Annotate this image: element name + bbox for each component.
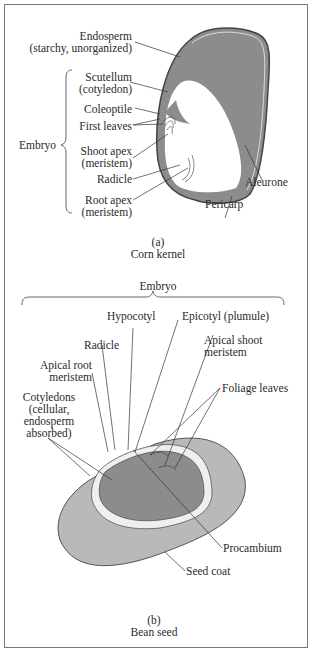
label-radicle-a: Radicle: [60, 173, 132, 185]
label-scutellum: Scutellum: [60, 71, 132, 83]
label-embryo-a: Embryo: [19, 139, 56, 151]
caption-a-letter: (a): [108, 236, 208, 248]
label-radicle-b: Radicle: [84, 339, 119, 351]
label-procambium: Procambium: [223, 542, 282, 554]
label-cotyledons-2: (cellular,: [14, 403, 84, 415]
label-hypocotyl: Hypocotyl: [107, 310, 156, 322]
label-seed-coat: Seed coat: [186, 565, 230, 577]
diagram-drawings: [0, 0, 317, 655]
label-epicotyl: Epicotyl (plumule): [182, 310, 269, 322]
caption-b-title: Bean seed: [104, 626, 204, 638]
label-embryo-b: Embryo: [108, 280, 208, 292]
label-apical-root-sub: meristem: [20, 371, 92, 383]
label-endosperm-sub: (starchy, unorganized): [10, 42, 132, 54]
label-apical-shoot: Apical shoot: [204, 334, 262, 346]
caption-a-title: Corn kernel: [108, 248, 208, 260]
caption-b-letter: (b): [104, 614, 204, 626]
label-cotyledons: Cotyledons: [14, 391, 84, 403]
label-first-leaves: First leaves: [60, 120, 132, 132]
label-shoot-apex: Shoot apex: [60, 145, 132, 157]
label-cotyledons-3: endosperm: [14, 415, 84, 427]
label-foliage-leaves: Foliage leaves: [222, 382, 288, 394]
label-scutellum-sub: (cotyledon): [60, 83, 132, 95]
label-apical-root: Apical root: [20, 359, 92, 371]
label-pericarp: Pericarp: [205, 198, 243, 210]
label-root-apex: Root apex: [60, 194, 132, 206]
label-endosperm: Endosperm: [70, 30, 132, 42]
label-apical-shoot-sub: meristem: [204, 346, 247, 358]
label-coleoptile: Coleoptile: [60, 103, 132, 115]
label-aleurone: Aleurone: [245, 176, 288, 188]
label-cotyledons-4: absorbed): [14, 427, 84, 439]
label-shoot-apex-sub: (meristem): [60, 157, 132, 169]
label-root-apex-sub: (meristem): [60, 206, 132, 218]
